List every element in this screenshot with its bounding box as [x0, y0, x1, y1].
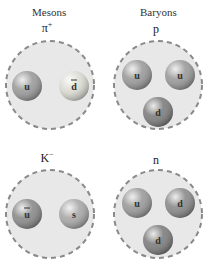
- quark-label: u: [177, 70, 183, 81]
- quark-label: u: [134, 198, 140, 209]
- hadron-diagram: uduudusudd: [0, 0, 211, 262]
- hadron-neutron: udd: [114, 170, 202, 258]
- quark-label: d: [155, 107, 161, 118]
- quark-label: d: [155, 235, 161, 246]
- hadron-proton: uud: [114, 41, 202, 129]
- quark-label: u: [24, 209, 30, 220]
- quark-s: s: [59, 199, 89, 229]
- quark-u: u: [122, 188, 152, 218]
- quark-label: u: [134, 70, 140, 81]
- quark-label: d: [71, 81, 77, 92]
- quark-label: d: [177, 198, 183, 209]
- quark-d: d: [143, 97, 173, 127]
- quark-u: u: [165, 60, 195, 90]
- quark-u: u: [122, 60, 152, 90]
- quark-label: s: [72, 209, 76, 220]
- antiquark-u: u: [12, 199, 42, 229]
- quark-d: d: [165, 188, 195, 218]
- quark-d: d: [143, 225, 173, 255]
- hadron-k-minus: us: [6, 170, 94, 258]
- hadron-pi-plus: ud: [6, 41, 94, 129]
- quark-label: u: [24, 81, 30, 92]
- quark-u: u: [12, 71, 42, 101]
- antiquark-d: d: [59, 71, 89, 101]
